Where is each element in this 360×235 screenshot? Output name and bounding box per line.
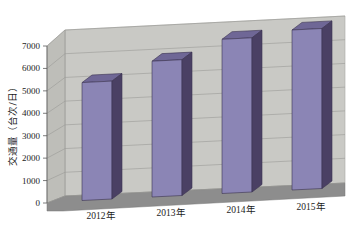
bar-2014[interactable] xyxy=(222,30,262,193)
y-tick-label-6000: 6000 xyxy=(22,63,41,73)
bar-2012[interactable] xyxy=(82,74,122,201)
x-label-2013: 2013年 xyxy=(157,207,186,218)
bar-2015-side xyxy=(322,21,332,189)
y-tick-label-3000: 3000 xyxy=(22,131,41,141)
y-axis-tick-labels: 7000 6000 5000 4000 3000 2000 1000 0 xyxy=(22,41,41,208)
bar-2012-side xyxy=(112,74,122,200)
y-tick-label-2000: 2000 xyxy=(22,153,41,163)
bar-2013-side xyxy=(182,52,192,195)
bar-2015-front xyxy=(292,29,322,191)
bar-2013[interactable] xyxy=(152,52,192,197)
y-tick-label-1000: 1000 xyxy=(22,176,41,186)
x-label-2012: 2012年 xyxy=(87,210,116,221)
bar-chart-figure: 7000 6000 5000 4000 3000 2000 1000 0 交通量… xyxy=(0,0,360,235)
x-label-2015: 2015年 xyxy=(297,201,326,212)
y-axis-title: 交通量（台次/日） xyxy=(7,82,18,165)
bar-2014-front xyxy=(222,38,252,194)
y-tick-label-4000: 4000 xyxy=(22,108,41,118)
chart-canvas: 7000 6000 5000 4000 3000 2000 1000 0 交通量… xyxy=(0,0,360,235)
y-tick-label-5000: 5000 xyxy=(22,86,41,96)
x-label-2014: 2014年 xyxy=(227,204,256,215)
bar-2015[interactable] xyxy=(292,21,332,190)
bar-2013-front xyxy=(152,60,182,197)
y-axis-ticks xyxy=(43,46,47,203)
bar-2014-side xyxy=(252,30,262,192)
y-tick-label-7000: 7000 xyxy=(22,41,41,51)
y-tick-label-0: 0 xyxy=(36,198,41,208)
bar-2012-front xyxy=(82,81,112,200)
